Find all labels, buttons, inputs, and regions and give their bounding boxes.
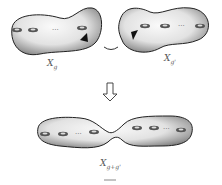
surface-x-g-prime: ··· [119, 8, 209, 52]
label-x-g-prime: Xg' [164, 53, 176, 65]
svg-text:···: ··· [178, 22, 185, 30]
label-x-g-plus-g-prime: Xg+g' [100, 158, 121, 170]
curved-connector [104, 47, 118, 50]
surface-x-g: ··· [12, 8, 102, 55]
svg-text:···: ··· [52, 26, 59, 34]
label-x-g: Xg [47, 58, 57, 70]
surface-x-g-plus-g-prime: ··· ··· [38, 116, 193, 148]
svg-text:···: ··· [75, 130, 82, 138]
down-arrow-icon [103, 83, 117, 101]
svg-text:···: ··· [163, 125, 170, 133]
